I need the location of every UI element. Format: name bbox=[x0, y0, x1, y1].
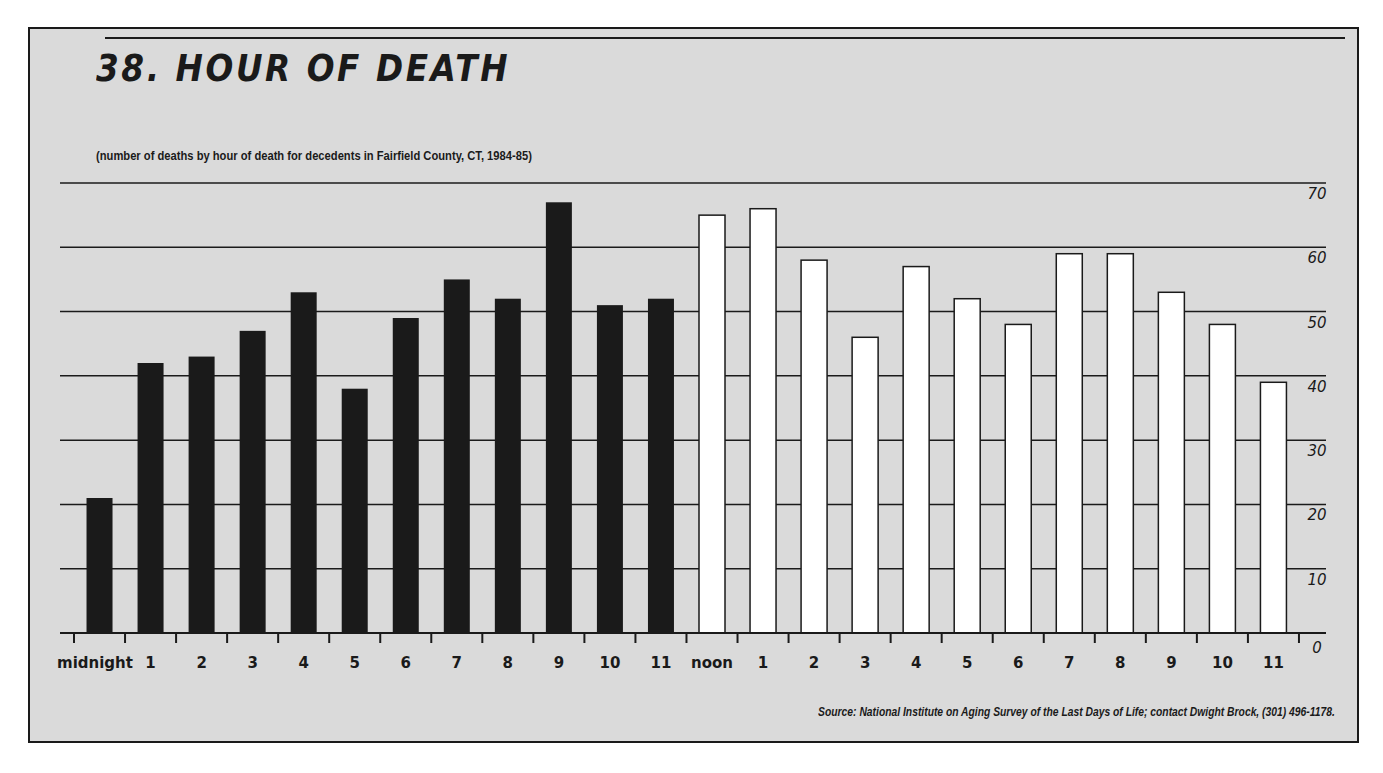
x-tick-label: 4 bbox=[298, 654, 308, 672]
x-tick-label: 3 bbox=[860, 654, 870, 672]
x-tick-label: 5 bbox=[350, 654, 360, 672]
y-tick-label: 60 bbox=[1307, 249, 1326, 267]
bar-chart: 010203040506070 midnight1234567891011noo… bbox=[0, 0, 1383, 773]
y-tick-label: 0 bbox=[1312, 639, 1322, 657]
x-tick-label: noon bbox=[691, 654, 733, 672]
x-tick-label: 8 bbox=[1115, 654, 1125, 672]
x-tick-label: 9 bbox=[554, 654, 564, 672]
x-tick-label: 5 bbox=[962, 654, 972, 672]
pm-bar bbox=[801, 260, 827, 633]
x-axis bbox=[60, 633, 1326, 643]
pm-bar bbox=[1107, 254, 1133, 633]
x-tick-label: 6 bbox=[1013, 654, 1023, 672]
am-bar bbox=[648, 299, 674, 633]
x-axis-labels: midnight1234567891011noon1234567891011 bbox=[57, 654, 1284, 672]
pm-bar bbox=[852, 337, 878, 633]
am-bar bbox=[240, 331, 266, 633]
x-tick-label: 4 bbox=[911, 654, 921, 672]
source-note: Source: National Institute on Aging Surv… bbox=[818, 705, 1335, 719]
x-tick-label: 11 bbox=[651, 654, 672, 672]
y-tick-label: 50 bbox=[1307, 314, 1326, 332]
x-tick-label: 9 bbox=[1166, 654, 1176, 672]
x-tick-label: midnight bbox=[57, 654, 133, 672]
x-tick-label: 7 bbox=[1064, 654, 1074, 672]
x-tick-label: 8 bbox=[503, 654, 513, 672]
pm-bar bbox=[954, 299, 980, 633]
pm-bar bbox=[1056, 254, 1082, 633]
am-bar bbox=[444, 279, 470, 633]
x-tick-label: 10 bbox=[1212, 654, 1233, 672]
x-tick-label: 1 bbox=[758, 654, 768, 672]
y-tick-label: 70 bbox=[1307, 185, 1326, 203]
x-tick-label: 7 bbox=[452, 654, 462, 672]
pm-bar bbox=[699, 215, 725, 633]
x-tick-label: 10 bbox=[599, 654, 620, 672]
x-tick-label: 11 bbox=[1263, 654, 1284, 672]
y-tick-label: 10 bbox=[1307, 571, 1326, 589]
pm-bar bbox=[903, 267, 929, 633]
y-tick-label: 40 bbox=[1307, 378, 1326, 396]
pm-bar bbox=[750, 209, 776, 633]
y-tick-label: 20 bbox=[1307, 506, 1326, 524]
am-bar bbox=[189, 357, 215, 633]
pm-bar bbox=[1209, 324, 1235, 633]
x-tick-label: 6 bbox=[401, 654, 411, 672]
am-bar bbox=[597, 305, 623, 633]
am-bar bbox=[393, 318, 419, 633]
pm-bar bbox=[1158, 292, 1184, 633]
x-tick-label: 3 bbox=[247, 654, 257, 672]
am-bar bbox=[87, 498, 113, 633]
am-bar bbox=[546, 202, 572, 633]
pm-bar bbox=[1260, 382, 1286, 633]
am-bar bbox=[291, 292, 317, 633]
am-bar bbox=[342, 389, 368, 633]
x-tick-label: 2 bbox=[196, 654, 206, 672]
x-tick-label: 1 bbox=[145, 654, 155, 672]
x-tick-label: 2 bbox=[809, 654, 819, 672]
am-bar bbox=[138, 363, 164, 633]
pm-bar bbox=[1005, 324, 1031, 633]
am-bar bbox=[495, 299, 521, 633]
y-tick-label: 30 bbox=[1307, 442, 1326, 460]
y-axis-labels: 010203040506070 bbox=[1307, 185, 1326, 657]
